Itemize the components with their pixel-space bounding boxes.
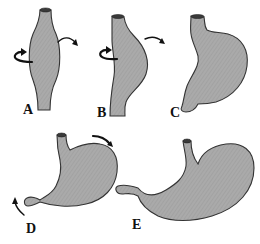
panel-a: A [15,8,78,117]
label-e: E [132,217,141,232]
stomach-shape-a [29,10,60,110]
lumen-e [183,139,191,143]
lumen-a [40,8,51,12]
label-d: D [26,221,36,236]
panel-b: B [97,15,165,121]
label-a: A [23,102,34,117]
lumen-d [57,133,66,137]
panel-c: C [170,15,247,121]
rotation-arrow-right-icon [145,37,162,41]
label-b: B [97,105,106,120]
panel-e: E [116,139,254,232]
rotation-curl-left-head [106,46,112,54]
fundus-arrow-right-icon [93,136,110,144]
pylorus-arrow-up-head [12,197,18,204]
rotation-curl-left-head [21,48,27,56]
lumen-b [112,15,124,19]
rotation-arrow-right-icon [58,38,75,42]
stomach-shape-b [110,16,148,116]
stomach-shape-d [24,135,117,206]
stomach-shape-c [181,16,247,112]
stomach-rotation-diagram: A B C D E [0,0,260,244]
label-c: C [170,105,180,120]
lumen-c [191,15,204,19]
stomach-shape-e [116,141,254,221]
panel-d: D [12,133,117,236]
